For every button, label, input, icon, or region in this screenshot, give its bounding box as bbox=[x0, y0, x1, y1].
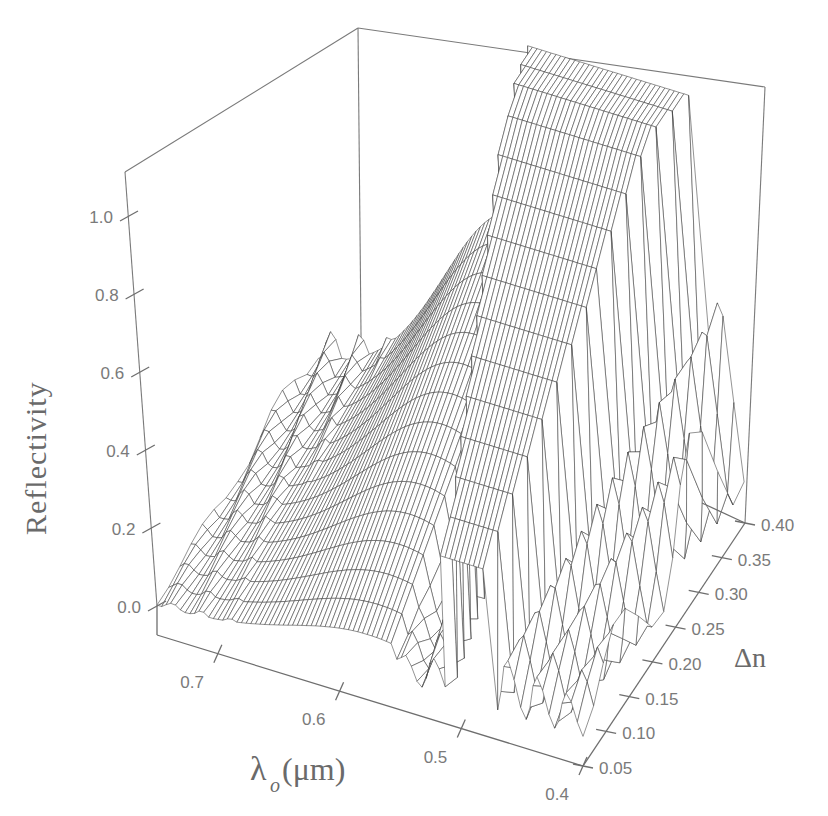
lambda-tick-label: 0.4 bbox=[545, 785, 569, 804]
lambda-symbol: λ bbox=[250, 750, 267, 787]
reflectivity-surface-plot: 0.00.20.40.60.81.0 0.70.60.50.4 0.050.10… bbox=[0, 0, 828, 816]
lambda-subscript: o bbox=[270, 774, 280, 796]
dn-tick-label: 0.40 bbox=[761, 516, 794, 535]
dn-tick-label: 0.30 bbox=[715, 585, 748, 604]
dn-tick-label: 0.10 bbox=[622, 724, 655, 743]
reflectivity-ticks: 0.00.20.40.60.81.0 bbox=[89, 208, 166, 617]
dn-tick-label: 0.20 bbox=[668, 655, 701, 674]
z-tick-label: 1.0 bbox=[89, 208, 113, 227]
z-tick-label: 0.2 bbox=[112, 520, 136, 539]
dn-tick-label: 0.35 bbox=[738, 551, 771, 570]
z-axis-title: Reflectivity bbox=[19, 381, 52, 535]
dn-tick-label: 0.25 bbox=[692, 620, 725, 639]
lambda-unit: (μm) bbox=[282, 751, 345, 787]
z-tick-label: 0.8 bbox=[95, 286, 119, 305]
lambda-tick-label: 0.5 bbox=[424, 748, 448, 767]
lambda-tick-label: 0.7 bbox=[180, 673, 204, 692]
dn-tick-label: 0.05 bbox=[599, 759, 632, 778]
z-tick-label: 0.0 bbox=[117, 598, 141, 617]
lambda-axis-title: λ o (μm) bbox=[250, 750, 345, 796]
lambda-tick-label: 0.6 bbox=[302, 710, 326, 729]
wireframe-surface bbox=[157, 46, 744, 737]
dn-tick-label: 0.15 bbox=[645, 690, 678, 709]
z-tick-label: 0.6 bbox=[101, 364, 125, 383]
dn-axis-title: Δn bbox=[734, 642, 766, 673]
z-tick-label: 0.4 bbox=[106, 442, 130, 461]
